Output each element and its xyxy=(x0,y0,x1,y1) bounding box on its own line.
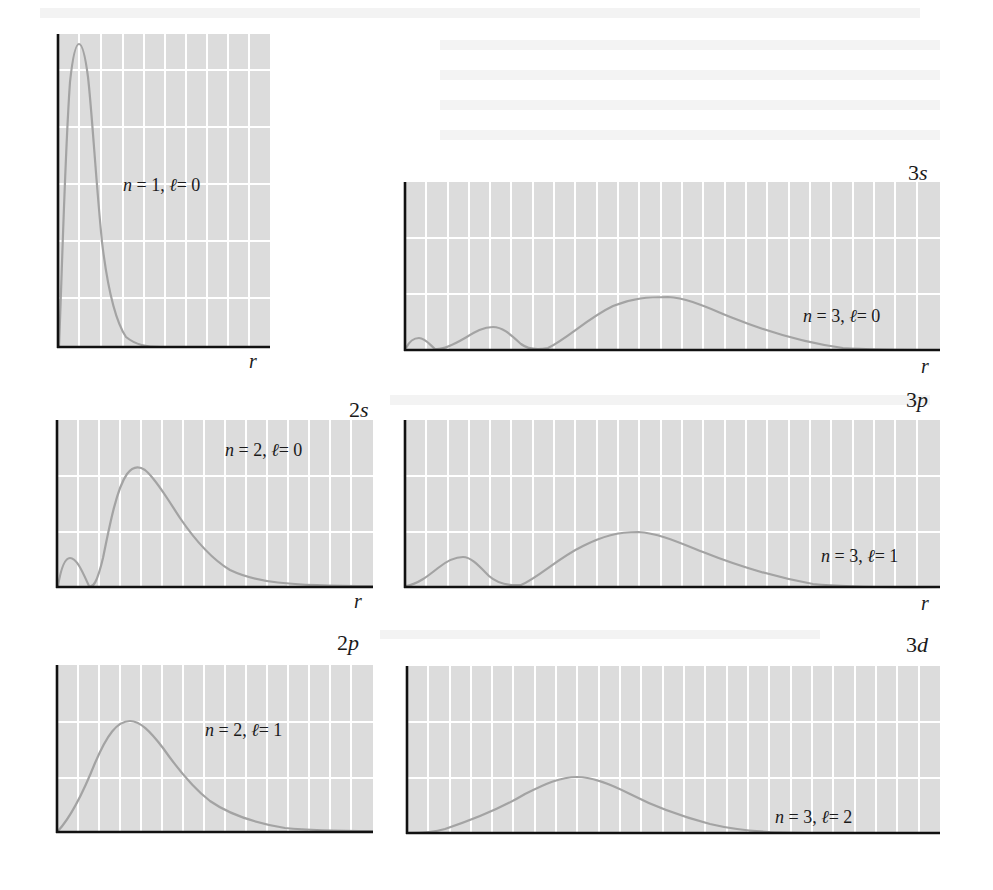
chart-3d-plot xyxy=(405,664,943,836)
chart-panel-1s: n = 1, ℓ= 0 xyxy=(56,32,272,350)
quantum-numbers-label: n = 1, ℓ= 0 xyxy=(123,175,200,196)
chart-panel-2s: n = 2, ℓ= 0 xyxy=(55,418,375,590)
r-axis-label-1s: r xyxy=(249,350,257,373)
quantum-numbers-label: n = 2, ℓ= 1 xyxy=(205,720,282,741)
quantum-numbers-label: n = 3, ℓ= 0 xyxy=(803,306,880,327)
r-axis-label-2s: r xyxy=(354,590,362,613)
chart-3s-plot xyxy=(403,180,943,353)
chart-2s-plot xyxy=(55,418,375,590)
chart-panel-3p: n = 3, ℓ= 1 xyxy=(403,418,943,590)
quantum-numbers-label: n = 3, ℓ= 1 xyxy=(821,546,898,567)
chart-2p-plot xyxy=(55,663,375,835)
quantum-numbers-label: n = 2, ℓ= 0 xyxy=(225,440,302,461)
chart-panel-3d: n = 3, ℓ= 2 xyxy=(405,664,943,836)
r-axis-label-3s: r xyxy=(921,355,929,378)
chart-panel-2p: n = 2, ℓ= 1 xyxy=(55,663,375,835)
orbital-label-2p: 2p xyxy=(337,630,359,656)
orbital-label-3p: 3p xyxy=(906,387,928,413)
chart-panel-3s: n = 3, ℓ= 0 xyxy=(403,180,943,353)
orbital-label-3d: 3d xyxy=(906,632,928,658)
quantum-numbers-label: n = 3, ℓ= 2 xyxy=(775,807,852,828)
r-axis-label-3p: r xyxy=(921,592,929,615)
